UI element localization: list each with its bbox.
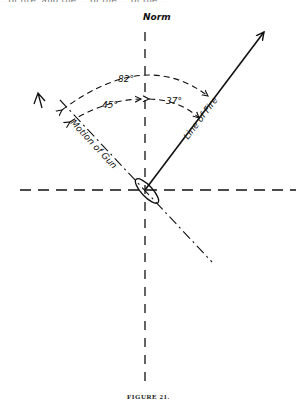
figure-diagram: Norm 82° 45° 37° Line of Fire Motion of … xyxy=(0,0,305,407)
figure-caption: FIGURE 21. xyxy=(127,393,170,401)
motion-of-gun-label: Motion of Gun xyxy=(69,118,120,171)
angle-arc-82 xyxy=(62,75,208,110)
motion-arrow-icon xyxy=(34,93,45,108)
line-of-fire-label: Line of Fire xyxy=(182,95,220,141)
gun-ellipse-icon xyxy=(132,176,162,207)
north-label: Norm xyxy=(143,12,171,22)
angle-label-37: 37° xyxy=(166,96,182,106)
angle-label-45: 45° xyxy=(102,100,118,110)
angle-label-82: 82° xyxy=(118,74,134,84)
